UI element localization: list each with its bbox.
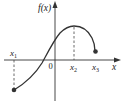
x2-label: x2 [69,62,77,73]
x-axis [4,58,121,63]
y-axis-label: f(x) [38,3,51,14]
origin-label: 0 [49,61,53,71]
function-graph: f(x) x 0 x1 x2 x3 [0,0,124,106]
x-axis-label: x [111,62,117,72]
right-endpoint-dot [93,49,98,54]
left-endpoint-dot [12,88,17,93]
y-axis [53,1,58,101]
x1-label: x1 [9,48,17,59]
x3-label: x3 [91,62,99,73]
y-axis-arrow-icon [53,1,58,8]
function-curve [14,26,95,90]
